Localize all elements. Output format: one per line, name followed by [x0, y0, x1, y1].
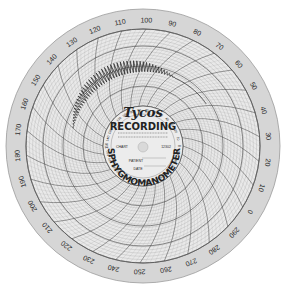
chart-label: CHART: [116, 145, 129, 149]
svg-text:0: 0: [177, 145, 181, 147]
center-hole: [138, 142, 148, 152]
scale-label: 100: [140, 16, 152, 23]
chart-subtitle: RECORDING: [110, 121, 177, 132]
date-label: DATE: [133, 167, 143, 171]
chart-number: 12302: [161, 145, 171, 149]
brand-title: Tycos: [123, 105, 163, 120]
svg-text:150: 150: [105, 143, 109, 149]
scale-label: 30: [265, 132, 273, 140]
scale-label: 180: [13, 150, 21, 162]
scale-label: 250: [134, 268, 146, 275]
recording-chart-disk: 0102030405060708090100110120130140150160…: [0, 0, 283, 289]
patient-label: PATIENT: [129, 159, 144, 163]
scale-label: 20: [264, 158, 272, 167]
